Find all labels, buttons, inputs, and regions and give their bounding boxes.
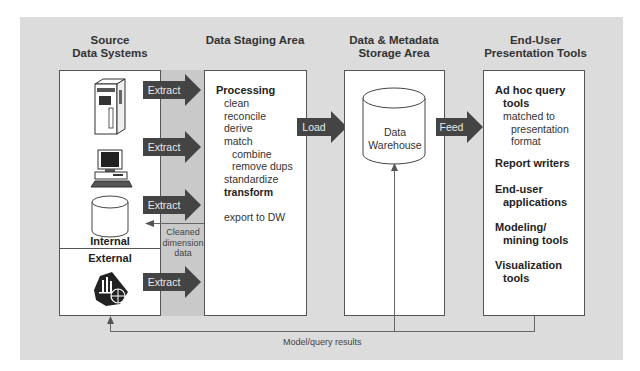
presentation-header: End-User Presentation Tools xyxy=(473,34,598,60)
step-match: match xyxy=(224,135,253,148)
staging-header: Data Staging Area xyxy=(195,34,315,47)
step-standardize: standardize xyxy=(224,173,278,186)
feedback-label: Model/query results xyxy=(283,336,362,349)
internal-label: Internal xyxy=(60,235,160,248)
cleaned-dimension-label: Cleaned dimension data xyxy=(158,227,208,259)
arrowhead-up-icon xyxy=(390,163,399,171)
desktop-computer-icon xyxy=(89,149,133,189)
step-transform: transform xyxy=(224,186,273,199)
step-combine: combine xyxy=(232,148,272,161)
processing-heading: Processing xyxy=(216,84,275,97)
feedback-line-warehouse xyxy=(394,166,395,332)
external-data-icon xyxy=(90,268,130,308)
database-cylinder-icon xyxy=(90,195,130,239)
presentation-tools-box: Ad hoc query tools matched to presentati… xyxy=(483,70,585,316)
tool-end-user-applications: End-user applications xyxy=(495,183,567,208)
step-derive: derive xyxy=(224,122,253,135)
feedback-line-presentation xyxy=(534,316,535,332)
feedback-line-horizontal xyxy=(110,331,535,332)
step-export: export to DW xyxy=(224,211,285,224)
mainframe-icon xyxy=(91,78,127,136)
tool-report-writers: Report writers xyxy=(495,157,570,170)
external-label: External xyxy=(60,252,160,265)
step-remove-dups: remove dups xyxy=(232,160,293,173)
tool-adhoc-query: Ad hoc query tools xyxy=(495,84,565,109)
staging-area-box: Processing clean reconcile derive match … xyxy=(204,70,307,316)
tool-visualization: Visualization tools xyxy=(495,259,562,284)
arrowhead-left-icon xyxy=(145,219,154,228)
cleaned-dimension-arrow xyxy=(152,223,205,224)
step-reconcile: reconcile xyxy=(224,110,266,123)
internal-external-divider xyxy=(60,248,160,249)
step-clean: clean xyxy=(224,97,249,110)
adhoc-sub: matched to presentation format xyxy=(503,110,569,148)
tool-modeling-mining: Modeling/ mining tools xyxy=(495,221,568,246)
arrowhead-up-icon xyxy=(106,316,115,324)
source-header: Source Data Systems xyxy=(50,34,170,60)
storage-header: Data & Metadata Storage Area xyxy=(334,34,454,60)
data-warehouse-label: Data Warehouse xyxy=(345,126,445,152)
